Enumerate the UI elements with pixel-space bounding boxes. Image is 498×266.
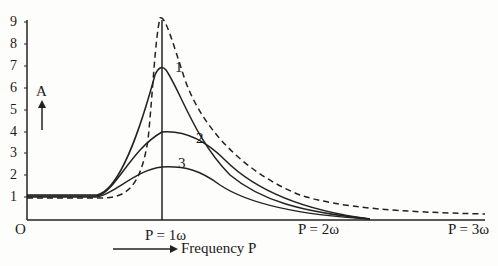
resonance-chart	[0, 0, 498, 266]
origin-label: O	[15, 222, 26, 237]
y-tick-5: 5	[3, 103, 17, 117]
curve-label-3: 3	[178, 156, 186, 171]
y-tick-6: 6	[3, 81, 17, 95]
curve-label-2: 2	[196, 131, 204, 146]
y-tick-8: 8	[3, 37, 17, 51]
y-tick-4: 4	[3, 125, 17, 139]
a-arrowhead-icon	[38, 100, 46, 108]
y-tick-3: 3	[3, 146, 17, 160]
x-tick-3w: P = 3ω	[448, 222, 489, 237]
x-tick-1w: P = 1ω	[145, 228, 186, 243]
y-tick-9: 9	[3, 15, 17, 29]
y-axis-label: A	[36, 84, 47, 99]
frequency-arrowhead-icon	[170, 245, 178, 253]
y-tick-7: 7	[3, 59, 17, 73]
curve-label-1: 1	[175, 60, 183, 75]
y-tick-2: 2	[3, 168, 17, 182]
x-axis-label: Frequency P	[181, 241, 256, 256]
x-tick-2w: P = 2ω	[298, 222, 339, 237]
y-tick-1: 1	[3, 190, 17, 204]
